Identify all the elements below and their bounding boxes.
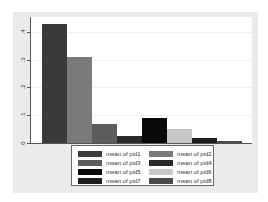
y-tick-label: 0 bbox=[19, 138, 27, 148]
legend-label: mean of pid8 bbox=[177, 177, 212, 185]
legend-label: mean of pid3 bbox=[106, 159, 141, 167]
legend-label: mean of pid2 bbox=[177, 150, 212, 158]
y-tick bbox=[27, 115, 30, 116]
y-tick bbox=[27, 32, 30, 33]
y-tick-label: .3 bbox=[19, 55, 27, 65]
legend-swatch bbox=[78, 178, 102, 184]
y-tick-label: .4 bbox=[19, 27, 27, 37]
y-tick bbox=[27, 143, 30, 144]
legend-swatch bbox=[78, 169, 102, 175]
legend-label: mean of pid6 bbox=[177, 168, 212, 176]
y-tick bbox=[27, 87, 30, 88]
bar-mean-of-pid6 bbox=[167, 129, 192, 143]
legend-swatch bbox=[149, 160, 173, 166]
y-tick-label: .2 bbox=[19, 82, 27, 92]
legend-swatch bbox=[78, 160, 102, 166]
legend-swatch bbox=[149, 178, 173, 184]
y-axis bbox=[30, 17, 31, 144]
legend-label: mean of pid7 bbox=[106, 177, 141, 185]
y-tick-label: .1 bbox=[19, 110, 27, 120]
legend-label: mean of pid5 bbox=[106, 168, 141, 176]
bar-mean-of-pid4 bbox=[117, 136, 142, 143]
legend-swatch bbox=[78, 151, 102, 157]
legend: mean of pid1 mean of pid2 mean of pid3 m… bbox=[71, 145, 214, 186]
y-tick bbox=[27, 60, 30, 61]
x-axis bbox=[30, 143, 252, 144]
legend-swatch bbox=[149, 151, 173, 157]
bar-mean-of-pid1 bbox=[42, 24, 67, 143]
legend-swatch bbox=[149, 169, 173, 175]
legend-label: mean of pid1 bbox=[106, 150, 141, 158]
legend-label: mean of pid4 bbox=[177, 159, 212, 167]
bar-mean-of-pid3 bbox=[92, 124, 117, 143]
bar-mean-of-pid2 bbox=[67, 57, 92, 143]
bar-mean-of-pid5 bbox=[142, 118, 167, 143]
